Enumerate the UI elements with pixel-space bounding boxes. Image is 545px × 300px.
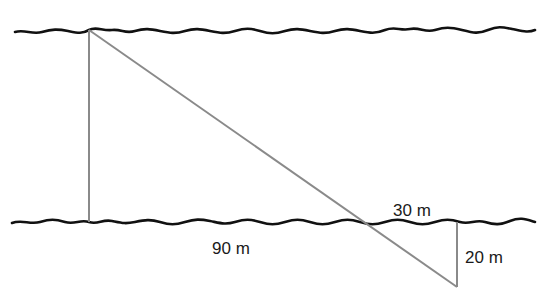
diagram-canvas xyxy=(0,0,545,300)
label-90m: 90 m xyxy=(212,240,250,257)
label-20m: 20 m xyxy=(465,249,503,266)
label-30m: 30 m xyxy=(393,202,431,219)
diagonal-sight-line xyxy=(89,30,457,287)
